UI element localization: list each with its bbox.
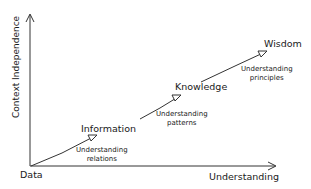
x-axis bbox=[30, 162, 276, 170]
y-axis-label: Context Independence bbox=[12, 16, 21, 118]
transition-label-patterns: Understanding patterns bbox=[156, 110, 208, 128]
node-information: Information bbox=[81, 124, 136, 134]
diagram-canvas bbox=[0, 0, 311, 189]
transition-label-relations: Understanding relations bbox=[76, 146, 128, 164]
node-knowledge: Knowledge bbox=[175, 82, 227, 92]
x-axis-label: Understanding bbox=[209, 172, 279, 182]
node-data: Data bbox=[20, 170, 43, 180]
node-wisdom: Wisdom bbox=[264, 39, 302, 49]
transition-label-principles: Understanding principles bbox=[241, 65, 293, 83]
y-axis bbox=[26, 14, 34, 166]
